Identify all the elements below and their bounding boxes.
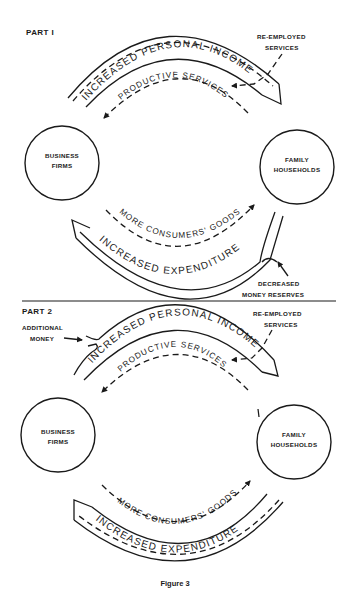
reserves-label-line2: MONEY RESERVES bbox=[242, 291, 304, 298]
consumers-goods-label: MORE CONSUMERS' GOODS bbox=[118, 207, 242, 240]
figure-3: PART I INCREASED PERSONAL INCOME PRODUCT… bbox=[0, 0, 354, 613]
family-households-node: FAMILY HOUSEHOLDS bbox=[260, 130, 334, 204]
reserves-label-line1: DECREASED bbox=[258, 280, 300, 287]
households-label-line2: HOUSEHOLDS bbox=[274, 166, 321, 173]
part-1: PART I INCREASED PERSONAL INCOME PRODUCT… bbox=[25, 28, 334, 299]
productive-services-label-2: PRODUCTIVE SERVICES bbox=[116, 340, 229, 374]
reserves-arrow bbox=[278, 262, 288, 276]
circular-flow-diagram: PART I INCREASED PERSONAL INCOME PRODUCT… bbox=[0, 0, 354, 613]
additional-money-line1: ADDITIONAL bbox=[22, 324, 63, 331]
business-label-line1: BUSINESS bbox=[45, 152, 79, 159]
business-firms-node-2: BUSINESS FIRMS bbox=[21, 398, 95, 472]
consumers-goods-label-2: MORE CONSUMERS' GOODS bbox=[116, 487, 239, 526]
households-label-line1: FAMILY bbox=[285, 156, 309, 163]
reemployed-label-2-line2: SERVICES bbox=[264, 321, 298, 328]
part-2-title: PART 2 bbox=[22, 307, 52, 316]
additional-money-arrow bbox=[64, 338, 82, 340]
business-label-2-line1: BUSINESS bbox=[41, 428, 75, 435]
expenditure-flow-arrow bbox=[72, 212, 283, 299]
expenditure-flow-label: INCREASED EXPENDITURE bbox=[97, 233, 242, 276]
income-flow-label-2: INCREASED PERSONAL INCOME bbox=[85, 306, 261, 365]
business-label-line2: FIRMS bbox=[52, 162, 73, 169]
productive-services-label: PRODUCTIVE SERVICES bbox=[117, 70, 231, 101]
family-households-node-2: FAMILY HOUSEHOLDS bbox=[257, 405, 331, 479]
business-label-2-line2: FIRMS bbox=[48, 438, 69, 445]
reemployed-label-2-line1: RE-EMPLOYED bbox=[253, 310, 302, 317]
figure-caption: Figure 3 bbox=[160, 579, 189, 588]
tick-mark bbox=[258, 409, 259, 417]
households-label-2-line1: FAMILY bbox=[282, 431, 306, 438]
part-2: PART 2 ADDITIONAL MONEY INCREASED PERSON… bbox=[21, 305, 331, 561]
households-label-2-line2: HOUSEHOLDS bbox=[271, 441, 318, 448]
part-1-title: PART I bbox=[26, 28, 54, 37]
reemployed-label-line2: SERVICES bbox=[265, 44, 299, 51]
additional-money-line2: MONEY bbox=[30, 335, 55, 342]
reemployed-label-line1: RE-EMPLOYED bbox=[257, 33, 306, 40]
business-firms-node: BUSINESS FIRMS bbox=[25, 126, 99, 200]
